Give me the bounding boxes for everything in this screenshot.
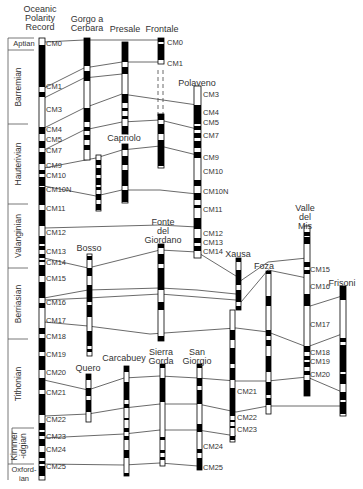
section-chron-label: CM11 <box>203 206 222 214</box>
chron-label-cm18: CM18 <box>46 333 66 341</box>
section-chron-label: CM23 <box>237 426 257 434</box>
stage-label-tithonian: Tithonian <box>14 359 23 409</box>
chron-label-cm22: CM22 <box>46 416 66 424</box>
stage-label-aptian: Aptian <box>10 39 38 48</box>
chron-label-cm20: CM20 <box>46 369 66 377</box>
chron-label-cm14: CM14 <box>46 259 66 267</box>
section-chron-label: CM16 <box>310 283 330 291</box>
chron-label-cm25: CM25 <box>46 463 66 471</box>
column-sierra <box>160 364 165 466</box>
section-chron-label: CM20 <box>310 371 330 379</box>
column-xausa_lower <box>230 310 235 442</box>
chron-label-cm10: CM10 <box>46 172 66 180</box>
chron-label-cm16: CM16 <box>46 299 66 307</box>
section-chron-label: CM7 <box>203 132 219 140</box>
stage-label-oxfordian: Oxford-ian <box>10 465 38 483</box>
chron-label-cm23: CM23 <box>46 433 66 441</box>
chron-label-cm4: CM4 <box>46 126 62 134</box>
section-title-quero: Quero <box>58 364 118 373</box>
column-oceanic <box>39 38 45 480</box>
column-capriolo <box>122 144 128 203</box>
chron-label-cm11: CM11 <box>46 205 65 213</box>
chron-label-cm7: CM7 <box>46 147 62 155</box>
column-frisoni <box>340 286 346 416</box>
section-chron-label: CM10N <box>203 188 228 196</box>
section-chron-label: CM5 <box>203 119 219 127</box>
section-chron-label: CM24 <box>203 443 223 451</box>
section-title-foza: Foza <box>234 262 294 271</box>
section-chron-label: CM25 <box>203 464 223 472</box>
chron-label-cm24: CM24 <box>46 446 66 454</box>
chron-label-cm13: CM13 <box>46 248 66 256</box>
chron-label-cm5: CM5 <box>46 136 62 144</box>
chron-label-cm21: CM21 <box>46 389 66 397</box>
section-title-frontale: Frontale <box>132 25 192 34</box>
column-capriolo_small <box>96 155 101 211</box>
chron-label-cm19: CM19 <box>46 351 66 359</box>
column-bosso <box>87 254 92 356</box>
column-carcabuey <box>124 366 129 476</box>
section-title-fonte: FontedelGiordano <box>133 218 193 245</box>
column-foza <box>266 271 271 414</box>
section-chron-label: CM22 <box>237 414 257 422</box>
chron-label-cm10n: CM10N <box>46 186 71 194</box>
column-frontale <box>158 38 164 64</box>
chron-label-cm3: CM3 <box>46 106 62 114</box>
section-chron-label: CM15 <box>310 266 330 274</box>
column-quero <box>86 374 91 422</box>
column-presale <box>122 42 128 134</box>
stage-label-hauterivian: Hauterivian <box>14 139 23 189</box>
section-chron-label: CM18 <box>310 349 330 357</box>
column-sangiorgio <box>197 364 202 470</box>
column-frontale2 <box>158 114 164 168</box>
section-chron-label: CM12 <box>203 230 223 238</box>
section-chron-label: CM0 <box>167 39 183 47</box>
section-chron-label: CM14 <box>203 248 223 256</box>
section-title-valle: ValledelMis <box>275 204 335 231</box>
column-fonte <box>158 244 164 341</box>
section-chron-label: CM3 <box>203 91 219 99</box>
chron-label-cm12: CM12 <box>46 229 66 237</box>
column-gorgo <box>84 38 90 160</box>
chron-label-cm9: CM9 <box>46 162 62 170</box>
column-polaveno <box>194 86 201 258</box>
stage-label-valanginian: Valanginian <box>14 211 23 261</box>
chron-label-cm15: CM15 <box>46 275 66 283</box>
stage-label-barremian: Barremian <box>14 62 23 112</box>
section-title-polaveno: Polaveno <box>167 79 227 88</box>
section-chron-label: CM17 <box>310 321 330 329</box>
section-chron-label: CM10 <box>203 168 223 176</box>
chron-label-cm1: CM1 <box>46 83 62 91</box>
section-chron-label: CM4 <box>203 109 219 117</box>
stage-label-berriasian: Berriasian <box>14 279 23 329</box>
section-title-bosso: Bosso <box>59 244 119 253</box>
section-title-sangiorgio: SanGiorgio <box>167 348 227 366</box>
section-chron-label: CM1 <box>167 60 183 68</box>
stage-label-kimmeridgian: Kimmer-idgian <box>10 421 28 471</box>
section-chron-label: CM19 <box>310 358 330 366</box>
chron-label-cm0: CM0 <box>46 40 62 48</box>
section-chron-label: CM21 <box>237 388 257 396</box>
section-chron-label: CM9 <box>203 154 219 162</box>
section-title-capriolo: Capriolo <box>94 134 154 143</box>
chron-label-cm17: CM17 <box>46 317 66 325</box>
section-chron-label: CM13 <box>203 239 223 247</box>
